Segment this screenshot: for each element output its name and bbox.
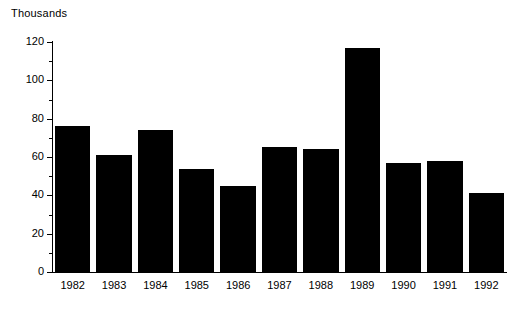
bar[interactable] xyxy=(262,147,297,272)
bar-slot xyxy=(427,42,462,272)
bar-chart: Thousands 020406080100120 19821983198419… xyxy=(0,0,531,314)
y-axis-tick-label: 20 xyxy=(4,228,44,239)
bar-slot xyxy=(220,42,255,272)
bar-slot xyxy=(386,42,421,272)
y-axis-tick-major xyxy=(47,272,53,273)
x-axis-line xyxy=(52,272,507,273)
y-axis-tick-label: 100 xyxy=(4,74,44,85)
x-axis-tick-label: 1990 xyxy=(383,278,424,292)
bar-slot xyxy=(138,42,173,272)
bar-slot xyxy=(179,42,214,272)
x-axis-tick-label: 1987 xyxy=(259,278,300,292)
x-axis-tick-label: 1984 xyxy=(135,278,176,292)
bar-slot xyxy=(303,42,338,272)
bar[interactable] xyxy=(96,155,131,272)
x-axis-tick-label: 1991 xyxy=(424,278,465,292)
bars-group xyxy=(52,42,507,272)
bar-slot xyxy=(345,42,380,272)
y-axis-tick-labels: 020406080100120 xyxy=(0,0,44,314)
bar-slot xyxy=(55,42,90,272)
bar[interactable] xyxy=(220,186,255,272)
bar[interactable] xyxy=(55,126,90,272)
x-axis-tick-label: 1983 xyxy=(93,278,134,292)
bar[interactable] xyxy=(386,163,421,272)
x-axis-tick-label: 1992 xyxy=(466,278,507,292)
x-axis-tick-label: 1989 xyxy=(342,278,383,292)
x-axis-tick-label: 1988 xyxy=(300,278,341,292)
y-axis-tick-label: 80 xyxy=(4,113,44,124)
bar[interactable] xyxy=(345,48,380,272)
bar-slot xyxy=(262,42,297,272)
y-axis-tick-label: 0 xyxy=(4,266,44,277)
x-axis-tick-label: 1982 xyxy=(52,278,93,292)
y-axis-tick-label: 120 xyxy=(4,36,44,47)
bar[interactable] xyxy=(469,193,504,272)
y-axis-tick-label: 60 xyxy=(4,151,44,162)
x-axis-tick-label: 1985 xyxy=(176,278,217,292)
bar-slot xyxy=(96,42,131,272)
bar[interactable] xyxy=(303,149,338,272)
y-axis-tick-label: 40 xyxy=(4,189,44,200)
bar[interactable] xyxy=(179,169,214,273)
bar[interactable] xyxy=(138,130,173,272)
x-axis-tick-label: 1986 xyxy=(217,278,258,292)
bar[interactable] xyxy=(427,161,462,272)
x-axis-tick-labels: 1982198319841985198619871988198919901991… xyxy=(52,278,507,298)
bar-slot xyxy=(469,42,504,272)
